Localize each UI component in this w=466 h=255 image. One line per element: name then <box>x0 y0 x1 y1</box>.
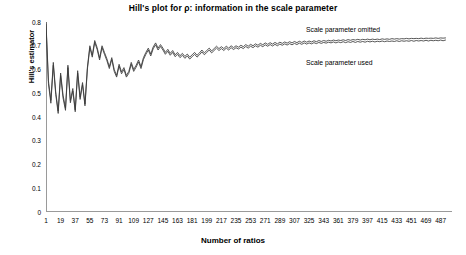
chart-title: Hill's plot for ρ: information in the sc… <box>0 3 466 13</box>
y-tick-label: 0.6 <box>17 66 41 73</box>
plot-svg <box>46 22 452 212</box>
y-tick-label: 0.8 <box>17 19 41 26</box>
y-tick-label: 0.1 <box>17 185 41 192</box>
x-tick-label: 487 <box>431 217 451 224</box>
series-line-1 <box>46 24 446 113</box>
series-annotation-0: Scale parameter omitted <box>306 26 380 34</box>
y-tick-label: 0.4 <box>17 114 41 121</box>
y-tick-label: 0.5 <box>17 90 41 97</box>
series-annotation-1: Scale parameter used <box>306 59 373 67</box>
y-tick-label: 0.3 <box>17 137 41 144</box>
chart-figure: Hill's plot for ρ: information in the sc… <box>0 0 466 255</box>
series-line-0 <box>46 22 446 111</box>
plot-area <box>46 22 452 212</box>
y-tick-label: 0 <box>17 209 41 216</box>
x-axis-title: Number of ratios <box>0 236 466 245</box>
y-tick-label: 0.7 <box>17 42 41 49</box>
axis-lines <box>46 22 452 212</box>
y-tick-label: 0.2 <box>17 161 41 168</box>
tick-marks <box>46 22 441 212</box>
data-series-lines <box>46 22 446 113</box>
